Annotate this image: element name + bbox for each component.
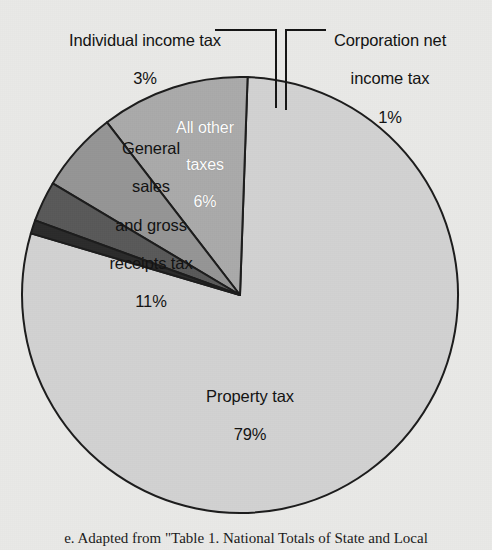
slice-label-corporation-line2: income tax <box>300 69 480 88</box>
slice-value-general-sales: 11% <box>92 292 210 311</box>
slice-label-individual-income-tax-text: Individual income tax <box>30 31 260 50</box>
chart-canvas: Individual income tax 3% Corporation net… <box>0 0 492 550</box>
slice-value-individual-income-tax: 3% <box>30 69 260 88</box>
slice-label-general-sales: General sales and gross receipts tax 11% <box>92 120 210 330</box>
slice-value-property-tax: 79% <box>170 425 330 444</box>
source-caption: e. Adapted from "Table 1. National Total… <box>0 530 492 547</box>
slice-label-general-line2: sales <box>92 177 210 196</box>
slice-label-general-line4: receipts tax <box>92 254 210 273</box>
slice-value-corporation-net-income-tax: 1% <box>300 108 480 127</box>
slice-label-general-line3: and gross <box>92 216 210 235</box>
slice-label-individual-income-tax: Individual income tax 3% <box>30 12 260 108</box>
slice-label-corporation-line1: Corporation net <box>300 31 480 50</box>
slice-label-general-line1: General <box>92 139 210 158</box>
slice-label-corporation-net-income-tax: Corporation net income tax 1% <box>300 12 480 146</box>
slice-label-property-tax-text: Property tax <box>170 387 330 406</box>
slice-label-property-tax: Property tax 79% <box>170 368 330 464</box>
